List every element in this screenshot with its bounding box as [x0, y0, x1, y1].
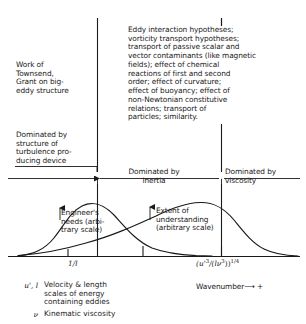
structure-note-rule [15, 167, 97, 173]
label-dominated-by-viscosity: Dominated by viscosity [225, 168, 305, 185]
tick-mid: /(lν [209, 259, 221, 268]
label-dominated-by-inertia: Dominated by inertia [99, 168, 209, 185]
tick-den: l [75, 259, 77, 268]
legend-definition: Velocity & length scales of energy conta… [44, 281, 178, 307]
note-eddy-hypotheses: Eddy interaction hypotheses; vorticity t… [128, 26, 300, 122]
note-dominated-by-structure: Dominated by structure of turbulence pro… [16, 131, 98, 166]
tick-power: 1/4 [231, 258, 240, 264]
axis-caption-wavenumber: Wavenumber⟶ + [196, 283, 263, 292]
legend: u', l Velocity & length scales of energy… [18, 281, 178, 322]
right-arrow-icon: ⟶ + [244, 282, 263, 291]
legend-definition: Kinematic viscosity [44, 310, 178, 319]
legend-item: ν Kinematic viscosity [18, 310, 178, 319]
note-townsend-grant: Work of Townsend, Grant on big- eddy str… [16, 61, 96, 96]
legend-symbol: ν [18, 310, 44, 319]
tick-num: 1 [68, 259, 73, 268]
axis-tick-label-integral-scale: 1/l [68, 259, 78, 268]
axis-caption-text: Wavenumber [196, 282, 244, 291]
label-engineers-needs: Engineer's needs (arbi- trary scale) [61, 209, 131, 235]
legend-symbol: u', l [18, 281, 44, 307]
label-extent-of-understanding: Extent of understanding (arbitrary scale… [156, 207, 238, 233]
axis-tick-label-kolmogorov-scale: (u'3/(lν3))1/4 [196, 258, 239, 268]
turbulence-diagram: Work of Townsend, Grant on big- eddy str… [0, 0, 306, 324]
legend-item: u', l Velocity & length scales of energy… [18, 281, 178, 307]
tick-prefix: (u' [196, 259, 206, 268]
wavenumber-axis [8, 246, 300, 257]
